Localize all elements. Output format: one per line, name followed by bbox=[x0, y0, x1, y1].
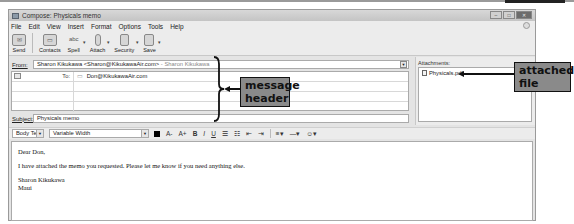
compose-toolbar: ✉ Send ▭ Contacts abc Spell ▾ Attach ▾ S… bbox=[9, 31, 535, 56]
security-label: Security bbox=[114, 47, 134, 53]
menu-tools[interactable]: Tools bbox=[148, 23, 163, 30]
bold-button[interactable]: B bbox=[193, 130, 198, 137]
menu-edit[interactable]: Edit bbox=[28, 23, 39, 30]
window-controls: – □ ✕ bbox=[490, 11, 532, 19]
lock-icon bbox=[120, 34, 129, 46]
recipient-row[interactable]: To: ▭ Don@KikukawaAir.com bbox=[12, 72, 408, 82]
format-separator bbox=[270, 129, 271, 138]
recipient-type-select[interactable]: To: bbox=[12, 72, 74, 81]
align-icon[interactable]: ≡▾ bbox=[276, 130, 284, 138]
spell-icon: abc bbox=[67, 34, 81, 46]
minimize-button[interactable]: – bbox=[490, 11, 502, 19]
recipient-row-empty[interactable] bbox=[12, 82, 408, 92]
security-dropdown-icon[interactable]: ▾ bbox=[136, 39, 139, 45]
message-header-callout: message header bbox=[240, 77, 290, 107]
arrow-line bbox=[463, 73, 515, 75]
window-title: Compose: Physicals memo bbox=[22, 12, 101, 19]
maximize-button[interactable]: □ bbox=[503, 11, 515, 19]
spell-dropdown-icon[interactable]: ▾ bbox=[83, 39, 86, 45]
contacts-icon: ▭ bbox=[43, 34, 57, 46]
send-label: Send bbox=[13, 47, 26, 53]
smiley-icon[interactable]: ☺▾ bbox=[306, 130, 317, 138]
recipient-type-dropdown-icon[interactable] bbox=[14, 73, 21, 79]
font-value: Variable Width bbox=[53, 130, 90, 136]
numbered-list-icon[interactable]: ☷ bbox=[234, 130, 240, 138]
recipient-row-empty[interactable] bbox=[12, 92, 408, 102]
address-book-icon: ▭ bbox=[77, 73, 83, 79]
body-signature-location: Maui bbox=[18, 184, 526, 192]
from-label: From: bbox=[11, 62, 33, 68]
message-body[interactable]: Dear Don, I have attached the memo you r… bbox=[11, 141, 533, 221]
indent-icon[interactable]: ⇥ bbox=[258, 130, 264, 138]
app-icon bbox=[12, 13, 19, 19]
from-value: Sharon Kikukawa <Sharon@KikukawaAir.com> bbox=[37, 61, 159, 67]
pdf-file-icon bbox=[422, 70, 427, 76]
recipient-address-field[interactable]: ▭ Don@KikukawaAir.com bbox=[74, 72, 147, 81]
save-button[interactable]: Save bbox=[143, 34, 156, 53]
send-button[interactable]: ✉ Send bbox=[12, 34, 26, 53]
chevron-down-icon[interactable]: ▼ bbox=[400, 61, 407, 68]
paragraph-style-select[interactable]: Body Text ▼ bbox=[12, 129, 44, 138]
send-icon: ✉ bbox=[12, 34, 26, 46]
message-header: From: Sharon Kikukawa <Sharon@KikukawaAi… bbox=[9, 57, 411, 125]
attach-button[interactable]: Attach bbox=[90, 34, 106, 53]
attach-label: Attach bbox=[90, 47, 106, 53]
recipients-list: To: ▭ Don@KikukawaAir.com bbox=[11, 71, 409, 111]
decrease-font-button[interactable]: A- bbox=[166, 130, 173, 137]
menu-options[interactable]: Options bbox=[119, 23, 141, 30]
close-button[interactable]: ✕ bbox=[516, 11, 532, 19]
security-button[interactable]: Security bbox=[114, 34, 134, 53]
bullet-list-icon[interactable]: ☰ bbox=[222, 130, 228, 138]
menu-bar: File Edit View Insert Format Options Too… bbox=[9, 21, 535, 31]
attached-file-callout: attached file bbox=[514, 62, 571, 92]
underline-button[interactable]: U bbox=[211, 130, 216, 137]
activity-throbber-icon bbox=[523, 22, 530, 29]
save-dropdown-icon[interactable]: ▾ bbox=[158, 39, 161, 45]
contacts-label: Contacts bbox=[39, 47, 61, 53]
recipient-row-empty[interactable] bbox=[12, 102, 408, 112]
top-rule-dark bbox=[505, 0, 565, 3]
italic-button[interactable]: I bbox=[203, 130, 205, 137]
title-bar: Compose: Physicals memo – □ ✕ bbox=[9, 10, 535, 21]
attach-icon bbox=[95, 34, 101, 46]
subject-label: Subject: bbox=[11, 116, 33, 122]
menu-format[interactable]: Format bbox=[91, 23, 112, 30]
recipient-address: Don@KikukawaAir.com bbox=[87, 73, 148, 79]
font-select[interactable]: Variable Width ▼ bbox=[49, 129, 149, 138]
body-signature-name: Sharon Kikukawa bbox=[18, 176, 526, 184]
body-paragraph: I have attached the memo you requested. … bbox=[18, 162, 526, 170]
save-label: Save bbox=[143, 47, 156, 53]
compose-window: Compose: Physicals memo – □ ✕ File Edit … bbox=[8, 9, 536, 221]
contacts-button[interactable]: ▭ Contacts bbox=[39, 34, 61, 53]
body-greeting: Dear Don, bbox=[18, 148, 526, 156]
save-icon bbox=[144, 34, 154, 46]
menu-help[interactable]: Help bbox=[170, 23, 183, 30]
attach-dropdown-icon[interactable]: ▾ bbox=[107, 39, 110, 45]
spell-label: Spell bbox=[68, 47, 80, 53]
toolbar-separator bbox=[32, 33, 33, 53]
outdent-icon[interactable]: ⇤ bbox=[246, 130, 252, 138]
subject-row: Subject: Physicals memo bbox=[11, 114, 409, 123]
top-rule bbox=[0, 0, 574, 2]
recipient-type-label: To: bbox=[62, 73, 70, 79]
arrow-line bbox=[229, 88, 240, 90]
format-toolbar: Body Text ▼ Variable Width ▼ A- A+ B I U… bbox=[9, 127, 535, 139]
insert-line-icon[interactable]: —▾ bbox=[290, 130, 301, 138]
menu-insert[interactable]: Insert bbox=[68, 23, 84, 30]
increase-font-button[interactable]: A+ bbox=[179, 130, 187, 137]
menu-view[interactable]: View bbox=[47, 23, 61, 30]
from-row: From: Sharon Kikukawa <Sharon@KikukawaAi… bbox=[11, 60, 409, 69]
chevron-down-icon[interactable]: ▼ bbox=[36, 130, 43, 137]
spell-button[interactable]: abc Spell bbox=[67, 34, 81, 53]
menu-file[interactable]: File bbox=[11, 23, 21, 30]
from-identity: - Sharon Kikukawa bbox=[161, 61, 210, 67]
chevron-down-icon[interactable]: ▼ bbox=[141, 130, 148, 137]
text-color-picker[interactable] bbox=[154, 131, 160, 137]
